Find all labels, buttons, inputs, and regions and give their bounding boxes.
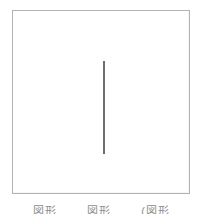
caption-segment-2: 図形 <box>87 205 111 214</box>
figure-caption: 図形 図形 (図形 <box>0 202 203 214</box>
vertical-line-stroke <box>103 61 105 154</box>
caption-line: 図形 図形 (図形 <box>0 205 203 214</box>
caption-segment-3: (図形 <box>141 205 170 214</box>
figure-frame <box>12 10 190 194</box>
figure-canvas: 図形 図形 (図形 <box>0 0 203 214</box>
caption-segment-1: 図形 <box>33 205 57 214</box>
